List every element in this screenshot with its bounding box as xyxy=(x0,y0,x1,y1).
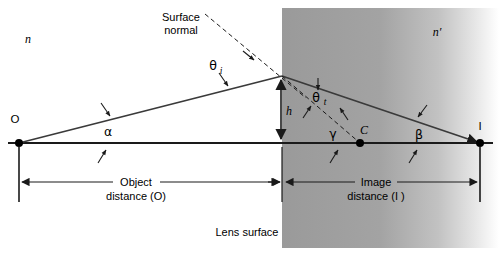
label-n-left: n xyxy=(25,32,31,46)
optics-refraction-diagram: n n′ Surface normal θ i θ t α β γ h O I … xyxy=(0,0,499,263)
label-point-c: C xyxy=(360,123,369,137)
label-n-prime-right: n′ xyxy=(433,25,442,39)
incident-ray xyxy=(19,76,282,143)
label-object-distance-line1: Object xyxy=(120,176,152,188)
label-image-distance-line1: Image xyxy=(361,176,392,188)
label-alpha: α xyxy=(104,124,112,139)
image-point-marker xyxy=(476,139,484,147)
tick-arrow-incident-ray xyxy=(101,103,110,116)
label-point-i: I xyxy=(478,120,481,132)
label-theta-i-subscript: i xyxy=(220,66,223,76)
label-surface-normal-line1: Surface xyxy=(162,11,200,23)
tick-arrow-axis-alpha xyxy=(98,150,106,163)
tick-arrow-theta-i-normal xyxy=(243,51,254,60)
label-image-distance-line2: distance (I ) xyxy=(347,190,404,202)
label-beta: β xyxy=(415,127,423,142)
label-gamma: γ xyxy=(329,126,337,141)
denser-medium-region xyxy=(282,8,499,248)
center-point-marker xyxy=(356,139,364,147)
label-lens-surface: Lens surface xyxy=(216,226,279,238)
label-theta-t: θ xyxy=(312,90,320,105)
label-theta-i: θ xyxy=(209,58,217,73)
diagram-canvas: n n′ Surface normal θ i θ t α β γ h O I … xyxy=(0,0,499,263)
label-object-distance-line2: distance (O) xyxy=(106,190,166,202)
label-surface-normal-line2: normal xyxy=(164,24,198,36)
label-theta-t-subscript: t xyxy=(324,97,327,107)
label-point-o: O xyxy=(11,113,20,125)
label-height-h: h xyxy=(286,104,292,118)
object-point-marker xyxy=(15,139,23,147)
